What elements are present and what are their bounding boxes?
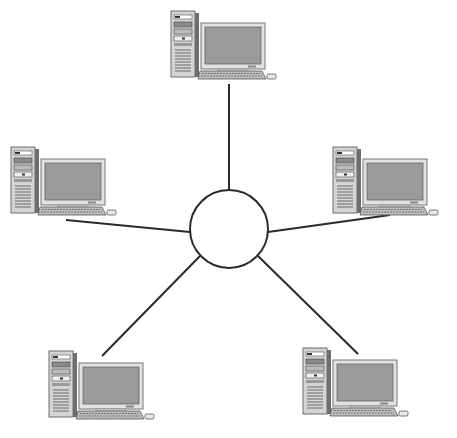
- pc-bottom-right: computer (bottom-right): [302, 347, 412, 419]
- star-network-diagram: central hub computer (top): [0, 0, 457, 438]
- computer-icon: [302, 347, 412, 419]
- computer-icon: [48, 350, 158, 422]
- computer-icon: [10, 146, 120, 218]
- pc-top: computer (top): [170, 10, 280, 82]
- computer-icon: [332, 146, 442, 218]
- link-pc-bottom-right: [258, 256, 358, 354]
- pc-left: computer (left): [10, 146, 120, 218]
- pc-right: computer (right): [332, 146, 442, 218]
- pc-bottom-left: computer (bottom-left): [48, 350, 158, 422]
- computer-icon: [170, 10, 280, 82]
- hub-circle: [190, 190, 268, 268]
- link-pc-bottom-left: [102, 256, 200, 356]
- link-pc-left: [66, 220, 190, 232]
